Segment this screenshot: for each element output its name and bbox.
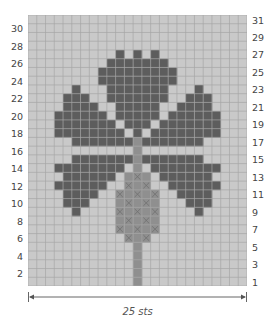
row-label-25: 25 [252, 68, 274, 77]
row-label-18: 18 [0, 129, 23, 138]
row-label-28: 28 [0, 42, 23, 51]
row-label-29: 29 [252, 33, 274, 42]
row-label-5: 5 [252, 243, 274, 252]
row-label-27: 27 [252, 50, 274, 59]
row-label-15: 15 [252, 155, 274, 164]
row-label-22: 22 [0, 94, 23, 103]
row-label-30: 30 [0, 24, 23, 33]
row-label-13: 13 [252, 173, 274, 182]
row-label-6: 6 [0, 234, 23, 243]
row-label-14: 14 [0, 164, 23, 173]
chart-grid-svg [28, 15, 247, 286]
row-label-4: 4 [0, 252, 23, 261]
row-label-11: 11 [252, 190, 274, 199]
row-label-12: 12 [0, 182, 23, 191]
width-dimension-arrow [28, 292, 247, 302]
row-label-24: 24 [0, 77, 23, 86]
row-label-16: 16 [0, 147, 23, 156]
row-label-20: 20 [0, 112, 23, 121]
row-label-31: 31 [252, 16, 274, 25]
row-label-17: 17 [252, 138, 274, 147]
row-label-1: 1 [252, 278, 274, 287]
row-label-21: 21 [252, 103, 274, 112]
row-label-19: 19 [252, 120, 274, 129]
stitch-count-label: 25 sts [28, 306, 247, 317]
row-label-10: 10 [0, 199, 23, 208]
row-label-7: 7 [252, 225, 274, 234]
knitting-chart-grid [28, 15, 247, 286]
row-label-8: 8 [0, 217, 23, 226]
row-label-9: 9 [252, 208, 274, 217]
row-label-26: 26 [0, 59, 23, 68]
row-label-3: 3 [252, 260, 274, 269]
row-label-2: 2 [0, 269, 23, 278]
row-label-23: 23 [252, 85, 274, 94]
